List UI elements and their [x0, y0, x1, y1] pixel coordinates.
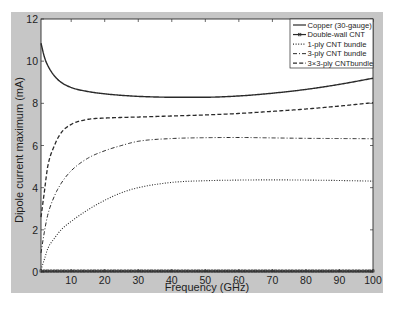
x-tick-label: 90 [334, 274, 346, 286]
x-tick-label: 100 [364, 274, 382, 286]
legend-label: 3×3-ply CNTbundle [308, 59, 374, 68]
x-tick-label: 70 [267, 274, 279, 286]
figure-page: 102030405060708090100024681012 Copper (3… [0, 0, 394, 309]
y-tick-label: 4 [32, 182, 38, 194]
y-tick-label: 0 [32, 266, 38, 278]
y-tick-label: 8 [32, 97, 38, 109]
legend-label: 1-ply CNT bundle [308, 40, 367, 49]
legend: Copper (30-gauge)Double-wall CNT1-ply CN… [290, 19, 373, 68]
x-tick-label: 20 [99, 274, 111, 286]
legend-label: Copper (30-gauge) [308, 21, 373, 30]
y-tick-label: 12 [26, 13, 38, 25]
x-axis-label: Frequency (GHz) [165, 281, 249, 293]
y-axis-label: Dipole current maximum (mA) [13, 77, 25, 223]
x-tick-label: 10 [65, 274, 77, 286]
x-tick-label: 80 [300, 274, 312, 286]
legend-label: Double-wall CNT [308, 30, 366, 39]
chart-figure: 102030405060708090100024681012 Copper (3… [0, 0, 394, 309]
y-tick-label: 10 [26, 55, 38, 67]
y-tick-label: 2 [32, 224, 38, 236]
y-tick-label: 6 [32, 140, 38, 152]
legend-label: 3-ply CNT bundle [308, 49, 367, 58]
x-tick-label: 30 [132, 274, 144, 286]
